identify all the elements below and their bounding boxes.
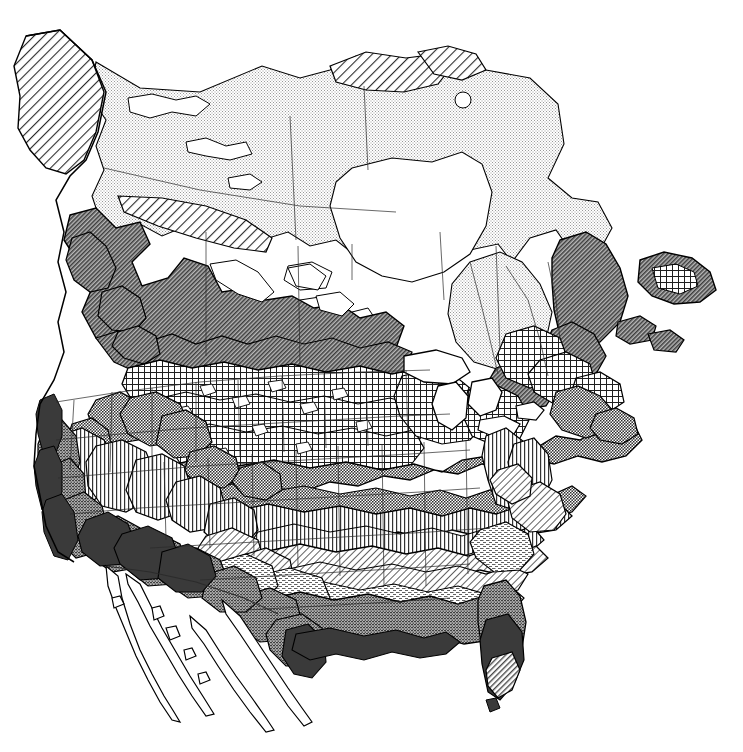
north-america-hardiness-map xyxy=(0,0,743,752)
map-figure: Plant Hardiness Zone Map of North Americ… xyxy=(0,0,743,752)
